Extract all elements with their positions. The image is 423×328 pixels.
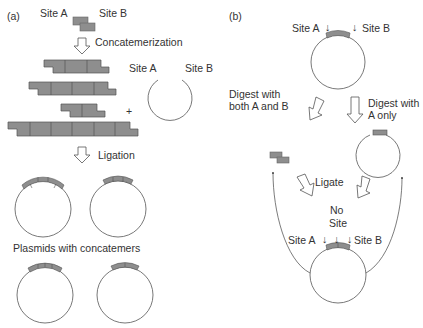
plasmid-3-inserts	[90, 176, 146, 237]
diagram-canvas	[0, 0, 423, 328]
plasmid-4-inserts	[17, 263, 73, 323]
insert-fragment-icon	[73, 17, 95, 31]
plasmid-2-inserts	[97, 263, 153, 323]
plasmid-5-inserts	[15, 177, 71, 237]
digest-both-line2: both A and B	[229, 100, 289, 112]
vector-site-b-label: Site B	[185, 62, 213, 74]
bottom-site-b-arrow-icon: ↓	[347, 233, 352, 245]
ligate-label: Ligate	[315, 176, 344, 188]
plasmid-cut-a-only	[356, 130, 400, 177]
top-site-a-arrow-icon: ↓	[325, 21, 330, 33]
concatemer-bar-3	[44, 60, 109, 73]
site-b-label: Site B	[99, 7, 127, 19]
top-site-b-label: Site B	[362, 22, 390, 34]
bottom-site-b-label: Site B	[354, 234, 382, 246]
digest-a-line1: Digest with	[368, 97, 419, 109]
down-arrow-icon	[347, 97, 363, 123]
down-arrow-icon	[74, 38, 90, 54]
open-vector-circle	[148, 80, 192, 120]
panel-a-label: (a)	[7, 10, 20, 22]
bottom-site-a-label: Site A	[288, 234, 315, 246]
plasmids-caption: Plasmids with concatemers	[13, 242, 140, 254]
diagonal-arrow-icon	[357, 176, 370, 198]
plus-sign: +	[126, 105, 132, 117]
bottom-site-a-arrow-icon: ↓	[322, 233, 327, 245]
panel-b-label: (b)	[229, 10, 242, 22]
diagonal-arrow-icon	[309, 97, 324, 120]
site-a-label: Site A	[40, 7, 67, 19]
concatemer-bar-4	[29, 82, 116, 95]
vector-site-a-label: Site A	[129, 62, 156, 74]
digest-a-line2: A only	[368, 109, 397, 121]
no-site-line1: No	[330, 204, 343, 216]
top-site-b-arrow-icon: ↓	[352, 21, 357, 33]
plasmid-with-insert-top	[311, 31, 365, 89]
concatemer-bar-2	[61, 104, 105, 117]
released-fragment-icon	[270, 152, 289, 163]
ligation-label: Ligation	[98, 149, 135, 161]
top-site-a-label: Site A	[292, 22, 319, 34]
digest-both-line1: Digest with	[229, 88, 280, 100]
no-site-line2: Site	[329, 217, 347, 229]
no-site-arrow-icon: ↓	[334, 233, 339, 245]
return-curve-right	[366, 178, 402, 273]
plasmid-no-site	[310, 243, 366, 303]
concatemerization-label: Concatemerization	[95, 36, 183, 48]
diagonal-arrow-icon	[297, 174, 314, 196]
concatemer-bar-6	[8, 122, 138, 136]
down-arrow-icon	[74, 147, 90, 163]
